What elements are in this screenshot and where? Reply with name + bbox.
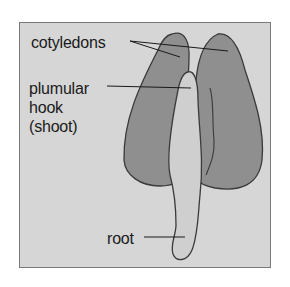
label-plumular: plumular [29,80,89,97]
label-root: root [107,230,134,247]
label-shoot: (shoot) [29,118,77,135]
label-hook: hook [29,99,63,116]
label-cotyledons: cotyledons [31,34,106,51]
right-cotyledon [195,34,263,189]
